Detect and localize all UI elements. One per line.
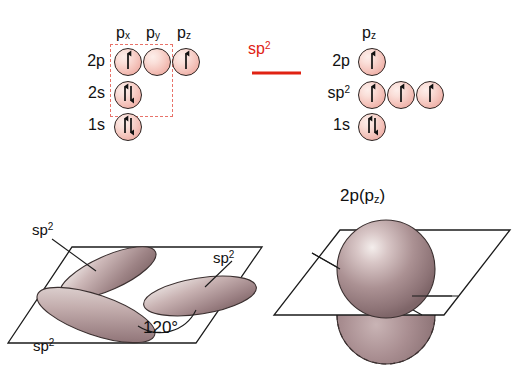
sp2-hybridization-figure: px py pz 2p 2s 1s	[0, 0, 521, 387]
sp2-lobes-diagram: sp2 sp2 sp2 120°	[0, 195, 270, 387]
pz-plane-graphic	[262, 183, 521, 387]
sp2-label-upper-left: sp2	[32, 221, 53, 238]
sp2-label-right: sp2	[213, 249, 234, 266]
right-orbital-diagram: pz 2p sp2 1s	[280, 0, 521, 160]
bond-angle-label: 120°	[143, 318, 178, 338]
pz-orbital-diagram: 2p(pz)	[262, 183, 521, 387]
right-electron-arrows	[280, 0, 521, 160]
sp2-label-lower-left: sp2	[33, 337, 54, 354]
transition-label: sp2	[248, 40, 270, 58]
left-electron-arrows	[0, 0, 240, 160]
left-orbital-diagram: px py pz 2p 2s 1s	[0, 0, 240, 160]
